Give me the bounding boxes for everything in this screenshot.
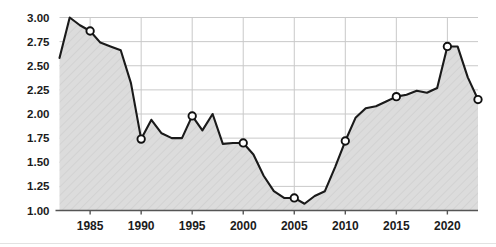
y-tick-label: 1.00 — [27, 205, 49, 217]
y-tick-label: 1.50 — [27, 156, 49, 168]
data-point-marker — [444, 43, 451, 50]
x-tick-label: 2010 — [332, 219, 359, 233]
data-point-marker — [474, 96, 481, 103]
x-tick-label: 1985 — [77, 219, 104, 233]
y-tick-label: 1.25 — [27, 180, 50, 192]
x-tick-label: 2015 — [383, 219, 410, 233]
x-tick-label: 2020 — [434, 219, 461, 233]
data-point-marker — [291, 194, 298, 201]
x-tick-label: 1995 — [179, 219, 206, 233]
y-tick-label: 1.75 — [27, 132, 50, 144]
data-point-marker — [188, 112, 195, 119]
y-tick-label: 3.00 — [27, 12, 49, 24]
y-tick-label: 2.25 — [27, 84, 50, 96]
data-point-marker — [240, 139, 247, 146]
x-tick-label: 2005 — [281, 219, 308, 233]
x-tick-label: 2000 — [230, 219, 257, 233]
y-axis-tick-labels: 1.001.251.501.752.002.252.502.753.00 — [27, 12, 50, 217]
data-point-marker — [86, 27, 93, 34]
data-point-marker — [137, 135, 144, 142]
y-tick-label: 2.00 — [27, 108, 49, 120]
data-point-marker — [342, 137, 349, 144]
y-tick-label: 2.75 — [27, 36, 50, 48]
chart-container: 1.001.251.501.752.002.252.502.753.00 198… — [0, 0, 496, 247]
data-point-marker — [393, 93, 400, 100]
y-tick-label: 2.50 — [27, 60, 49, 72]
x-tick-label: 1990 — [128, 219, 155, 233]
line-area-chart: 1.001.251.501.752.002.252.502.753.00 198… — [0, 0, 496, 247]
